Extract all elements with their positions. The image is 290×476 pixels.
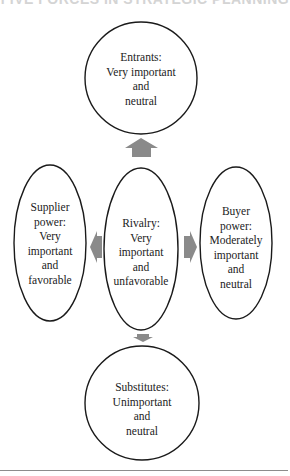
supplier-line: important xyxy=(14,244,86,259)
arrow-down-icon xyxy=(133,334,153,342)
buyer-title: power: xyxy=(196,219,276,234)
substitutes-line: neutral xyxy=(92,424,192,439)
supplier-title: power: xyxy=(14,215,86,230)
buyer-line: neutral xyxy=(196,277,276,292)
supplier-label: Supplier power: Very important and favor… xyxy=(14,200,86,287)
arrow-up-icon xyxy=(125,138,158,157)
substitutes-line: Unimportant xyxy=(92,395,192,410)
entrants-line: Very important xyxy=(91,65,191,80)
buyer-label: Buyer power: Moderately important and ne… xyxy=(196,204,276,291)
entrants-line: and xyxy=(91,79,191,94)
entrants-line: neutral xyxy=(91,94,191,109)
rivalry-line: unfavorable xyxy=(101,274,181,289)
supplier-title: Supplier xyxy=(14,200,86,215)
rivalry-line: important xyxy=(101,245,181,260)
supplier-line: and xyxy=(14,258,86,273)
bottom-rule xyxy=(0,470,288,471)
entrants-title: Entrants: xyxy=(91,50,191,65)
rivalry-line: Very xyxy=(101,231,181,246)
buyer-line: important xyxy=(196,248,276,263)
supplier-line: Very xyxy=(14,229,86,244)
substitutes-label: Substitutes: Unimportant and neutral xyxy=(92,380,192,438)
rivalry-line: and xyxy=(101,260,181,275)
buyer-line: Moderately xyxy=(196,233,276,248)
substitutes-line: and xyxy=(92,409,192,424)
rivalry-title: Rivalry: xyxy=(101,216,181,231)
substitutes-title: Substitutes: xyxy=(92,380,192,395)
buyer-line: and xyxy=(196,262,276,277)
buyer-title: Buyer xyxy=(196,204,276,219)
rivalry-label: Rivalry: Very important and unfavorable xyxy=(101,216,181,289)
supplier-line: favorable xyxy=(14,273,86,288)
entrants-label: Entrants: Very important and neutral xyxy=(91,50,191,108)
